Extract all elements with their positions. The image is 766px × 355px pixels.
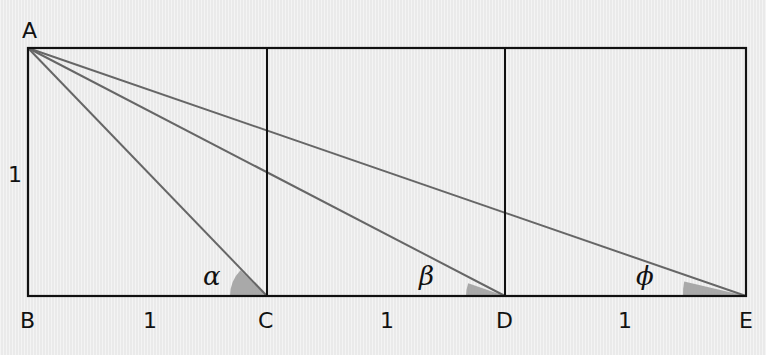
- side-label-CD: 1: [380, 308, 394, 333]
- side-label-BC: 1: [143, 308, 157, 333]
- angle-label-phi: ϕ: [636, 261, 654, 291]
- side-label-AB: 1: [8, 162, 22, 187]
- angle-phi-sector: [683, 282, 746, 296]
- point-label-B: B: [20, 308, 35, 333]
- angle-alpha-sector: [230, 270, 267, 296]
- segment-AC: [28, 48, 267, 296]
- point-label-A: A: [22, 18, 37, 43]
- point-label-D: D: [496, 308, 513, 333]
- side-label-DE: 1: [618, 308, 632, 333]
- geometry-diagram: A B C D E 1 1 1 1 α β ϕ: [0, 0, 766, 355]
- point-label-C: C: [258, 308, 273, 333]
- segment-AE: [28, 48, 746, 296]
- angle-label-alpha: α: [203, 261, 221, 291]
- angle-label-beta: β: [418, 261, 434, 291]
- point-label-E: E: [739, 308, 753, 333]
